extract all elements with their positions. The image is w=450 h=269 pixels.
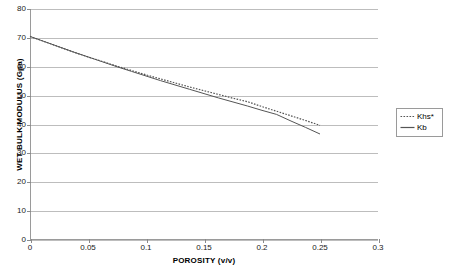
dotted-line-swatch: [400, 112, 415, 121]
x-axis-tick-labels: 00.050.10.150.20.250.3: [30, 243, 378, 255]
x-axis-title: POROSITY (v/v): [30, 256, 378, 265]
legend-entry[interactable]: Kb: [400, 122, 439, 133]
chart-container: 01020304050607080 WET BULK MODULUS (Gpa)…: [0, 0, 450, 269]
x-axis-tick-label: 0.15: [184, 243, 224, 253]
series-line-khs: [30, 36, 320, 125]
y-axis-title: WET BULK MODULUS (Gpa): [15, 40, 24, 190]
y-axis-tick-label: 10: [0, 207, 26, 215]
x-axis-tick-label: 0.1: [126, 243, 166, 253]
x-axis-tick-label: 0.2: [242, 243, 282, 253]
x-axis-tick-label: 0: [10, 243, 50, 253]
y-axis-tick-label: 80: [0, 5, 26, 13]
solid-line-swatch: [400, 123, 415, 132]
chart-legend: Khs*Kb: [396, 108, 443, 137]
series-layer: [30, 9, 378, 240]
legend-label: Khs*: [415, 112, 434, 121]
x-axis-tick-label: 0.25: [300, 243, 340, 253]
legend-label: Kb: [415, 123, 427, 132]
x-axis-tick-label: 0.05: [68, 243, 108, 253]
series-line-kb: [30, 36, 320, 134]
x-axis-tick-label: 0.3: [358, 243, 398, 253]
legend-entry[interactable]: Khs*: [400, 111, 439, 122]
